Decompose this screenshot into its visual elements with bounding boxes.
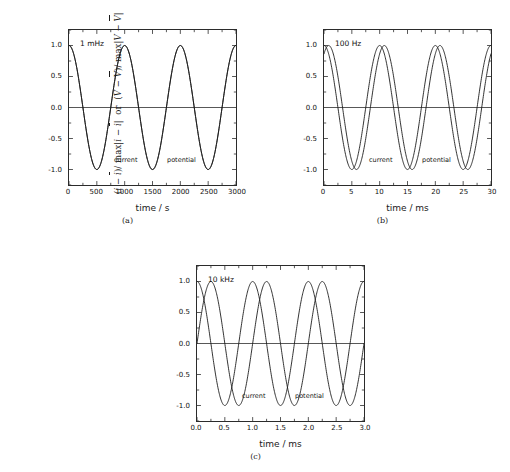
x-tick-c-1: 0.5	[219, 424, 230, 432]
y-tick-b-0: 1.0	[306, 41, 317, 49]
x-tick-b-6: 30	[488, 188, 497, 196]
y-tick-a-3: -0.5	[48, 135, 62, 143]
x-tick-a-5: 2500	[200, 188, 218, 196]
x-tick-labels-b: 051015202530	[323, 188, 492, 200]
plot-curves-b	[324, 30, 491, 185]
x-tick-b-3: 15	[403, 188, 412, 196]
x-tick-c-5: 2.5	[331, 424, 342, 432]
y-tick-b-4: -1.0	[303, 166, 317, 174]
x-tick-a-0: 0	[66, 188, 70, 196]
y-tick-b-3: -0.5	[303, 135, 317, 143]
y-tick-c-0: 1.0	[179, 277, 190, 285]
x-tick-b-5: 25	[459, 188, 468, 196]
x-tick-b-0: 0	[321, 188, 325, 196]
figure-panel-a: (i − i)/ max|i − i| or (V − V)/ max|V − …	[0, 0, 255, 236]
x-tick-b-1: 5	[349, 188, 353, 196]
y-tick-labels-b: 1.00.50.0-0.5-1.0	[293, 29, 320, 186]
curve-label-potential-c: potential	[295, 392, 324, 400]
y-tick-b-1: 0.5	[306, 72, 317, 80]
plot-frame-a: 1 mHz current potential	[68, 29, 237, 186]
x-tick-a-6: 3000	[228, 188, 246, 196]
y-tick-c-1: 0.5	[179, 308, 190, 316]
curve-label-current-c: current	[242, 392, 265, 400]
x-tick-a-1: 500	[89, 188, 102, 196]
plot-frame-b: 100 Hz current potential	[323, 29, 492, 186]
y-tick-labels-c: 1.00.50.0-0.5-1.0	[166, 265, 193, 422]
x-tick-labels-c: 0.00.51.01.52.02.53.0	[196, 424, 365, 436]
frequency-annotation-b: 100 Hz	[335, 39, 361, 48]
y-tick-a-2: 0.0	[51, 104, 62, 112]
y-tick-a-4: -1.0	[48, 166, 62, 174]
x-tick-c-3: 1.5	[275, 424, 286, 432]
figure-panel-b: (i − i)/ max|i − i| or (V − V)/ max|V − …	[255, 0, 510, 236]
subfigure-caption-b: (b)	[255, 216, 510, 225]
curve-label-potential-a: potential	[167, 156, 196, 164]
plot-curves-c	[197, 266, 364, 421]
curve-label-potential-b: potential	[422, 156, 451, 164]
y-axis-label-b: (i − i)/ max|i − i| or (V − V)/ max|V − …	[110, 37, 126, 194]
curve-label-current-b: current	[369, 156, 392, 164]
x-tick-c-6: 3.0	[359, 424, 370, 432]
x-axis-label-b: time / ms	[323, 203, 492, 213]
plot-frame-c: 10 kHz current potential	[196, 265, 365, 422]
plot-curves-a	[69, 30, 236, 185]
x-axis-label-c: time / ms	[196, 439, 365, 449]
subfigure-caption-a: (a)	[0, 216, 255, 225]
figure-panel-c: (i − i)/ max|i − i| or (V − V)/ max|V − …	[128, 236, 383, 472]
x-tick-a-3: 1500	[144, 188, 162, 196]
y-tick-b-2: 0.0	[306, 104, 317, 112]
x-tick-b-2: 10	[375, 188, 384, 196]
subfigure-caption-c: (c)	[128, 452, 383, 461]
frequency-annotation-a: 1 mHz	[80, 39, 104, 48]
x-tick-labels-a: 050010001500200025003000	[68, 188, 237, 200]
x-axis-label-a: time / s	[68, 203, 237, 213]
x-tick-c-0: 0.0	[190, 424, 201, 432]
y-tick-c-3: -0.5	[176, 371, 190, 379]
y-tick-c-2: 0.0	[179, 340, 190, 348]
y-tick-labels-a: 1.00.50.0-0.5-1.0	[38, 29, 65, 186]
x-tick-c-2: 1.0	[247, 424, 258, 432]
x-tick-a-4: 2000	[172, 188, 190, 196]
y-tick-a-0: 1.0	[51, 41, 62, 49]
y-tick-a-1: 0.5	[51, 72, 62, 80]
y-tick-c-4: -1.0	[176, 402, 190, 410]
x-tick-c-4: 2.0	[303, 424, 314, 432]
x-tick-b-4: 20	[431, 188, 440, 196]
frequency-annotation-c: 10 kHz	[208, 275, 234, 284]
